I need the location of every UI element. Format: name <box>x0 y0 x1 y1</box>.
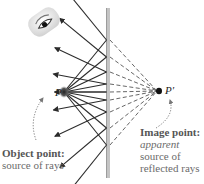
incident-ray <box>64 40 107 92</box>
reflected-ray <box>60 128 107 167</box>
incident-ray <box>64 92 107 100</box>
reflected-ray <box>60 18 107 57</box>
virtual-ray <box>110 72 157 91</box>
virtual-ray <box>110 40 157 91</box>
image-point-apparent: apparent <box>140 138 179 150</box>
object-point-label: Object point: source of rays <box>2 147 65 171</box>
virtual-ray <box>110 91 157 112</box>
reflected-ray <box>55 48 107 72</box>
image-point <box>156 88 162 94</box>
image-point-heading: Image point: <box>140 126 200 138</box>
object-point-heading: Object point: <box>2 147 65 159</box>
virtual-ray <box>110 91 157 128</box>
object-point-symbol: P <box>55 86 62 98</box>
image-point-label: Image point: apparent source of reflecte… <box>140 126 200 174</box>
reflected-ray <box>65 0 106 40</box>
incident-ray <box>64 92 107 145</box>
reflected-ray <box>55 112 107 136</box>
incident-ray <box>64 84 107 92</box>
eye-icon <box>25 4 64 40</box>
reflected-ray <box>66 145 107 184</box>
image-point-description-2: source of <box>140 150 181 162</box>
incident-ray <box>64 92 107 112</box>
image-pointer-arrow <box>156 100 171 128</box>
image-point-description-3: reflected rays <box>140 162 200 174</box>
virtual-ray <box>110 84 157 91</box>
image-point-symbol: P′ <box>165 84 174 96</box>
object-pointer-arrow <box>33 98 43 140</box>
virtual-ray <box>110 91 157 92</box>
object-point-description: source of rays <box>2 159 64 171</box>
plane-mirror <box>107 8 111 178</box>
virtual-ray <box>110 57 157 91</box>
